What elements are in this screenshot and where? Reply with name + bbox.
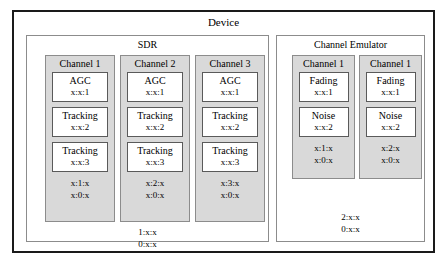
module-address: x:x:3 bbox=[53, 157, 107, 168]
module-name: Tracking bbox=[128, 110, 182, 122]
module-box-agc[interactable]: AGC x:x:1 bbox=[127, 72, 183, 102]
channel-footer-line: x:0:x bbox=[293, 154, 354, 166]
module-box-fading[interactable]: Fading x:x:1 bbox=[366, 72, 416, 102]
module-address: x:x:1 bbox=[128, 87, 182, 98]
emulator-group-frame: Channel Emulator Channel 1 Fading x:x:1 … bbox=[276, 35, 425, 242]
module-box-fading[interactable]: Fading x:x:1 bbox=[299, 72, 349, 102]
module-address: x:x:2 bbox=[53, 122, 107, 133]
module-address: x:x:2 bbox=[367, 122, 415, 133]
sdr-channel-box-1[interactable]: Channel 1 AGC x:x:1 Tracking x:x:2 Track… bbox=[45, 55, 115, 222]
module-box-agc[interactable]: AGC x:x:1 bbox=[202, 72, 258, 102]
channel-footer-line: x:0:x bbox=[360, 154, 421, 166]
module-name: Noise bbox=[367, 110, 415, 122]
sdr-group-footer: 1:x:x 0:x:x bbox=[27, 226, 268, 250]
module-name: Tracking bbox=[128, 145, 182, 157]
module-name: Fading bbox=[367, 75, 415, 87]
module-name: AGC bbox=[203, 75, 257, 87]
module-address: x:x:2 bbox=[128, 122, 182, 133]
emulator-channel-title-1: Channel 1 bbox=[293, 58, 354, 70]
sdr-channel-title-1: Channel 1 bbox=[46, 58, 114, 70]
emulator-channel-title-2: Channel 1 bbox=[360, 58, 421, 70]
module-name: Fading bbox=[300, 75, 348, 87]
sdr-channel-title-3: Channel 3 bbox=[196, 58, 264, 70]
module-box-agc[interactable]: AGC x:x:1 bbox=[52, 72, 108, 102]
channel-footer-line: x:0:x bbox=[121, 189, 189, 201]
module-address: x:x:2 bbox=[203, 122, 257, 133]
channel-footer-line: x:2:x bbox=[121, 177, 189, 189]
module-box-tracking[interactable]: Tracking x:x:2 bbox=[202, 107, 258, 137]
group-footer-line: 1:x:x bbox=[27, 226, 268, 238]
module-name: AGC bbox=[53, 75, 107, 87]
module-name: Tracking bbox=[53, 110, 107, 122]
module-name: AGC bbox=[128, 75, 182, 87]
module-address: x:x:2 bbox=[300, 122, 348, 133]
emulator-group-footer: 2:x:x 0:x:x bbox=[277, 211, 424, 235]
module-name: Tracking bbox=[53, 145, 107, 157]
sdr-channel-footer-3: x:3:x x:0:x bbox=[196, 177, 264, 201]
module-address: x:x:1 bbox=[53, 87, 107, 98]
channel-footer-line: x:1:x bbox=[293, 142, 354, 154]
channel-footer-line: x:0:x bbox=[46, 189, 114, 201]
sdr-group-title: SDR bbox=[27, 39, 268, 51]
module-name: Tracking bbox=[203, 110, 257, 122]
module-box-tracking[interactable]: Tracking x:x:3 bbox=[127, 142, 183, 172]
sdr-channel-footer-2: x:2:x x:0:x bbox=[121, 177, 189, 201]
sdr-channel-footer-1: x:1:x x:0:x bbox=[46, 177, 114, 201]
module-box-noise[interactable]: Noise x:x:2 bbox=[366, 107, 416, 137]
module-box-noise[interactable]: Noise x:x:2 bbox=[299, 107, 349, 137]
emulator-group-title: Channel Emulator bbox=[277, 39, 424, 51]
emulator-channel-footer-2: x:2:x x:0:x bbox=[360, 142, 421, 166]
module-box-tracking[interactable]: Tracking x:x:2 bbox=[52, 107, 108, 137]
group-footer-line: 0:x:x bbox=[277, 223, 424, 235]
module-box-tracking[interactable]: Tracking x:x:3 bbox=[52, 142, 108, 172]
module-box-tracking[interactable]: Tracking x:x:3 bbox=[202, 142, 258, 172]
emulator-channel-box-2[interactable]: Channel 1 Fading x:x:1 Noise x:x:2 x:2:x… bbox=[359, 55, 422, 179]
module-address: x:x:1 bbox=[367, 87, 415, 98]
module-name: Noise bbox=[300, 110, 348, 122]
emulator-channel-footer-1: x:1:x x:0:x bbox=[293, 142, 354, 166]
module-name: Tracking bbox=[203, 145, 257, 157]
module-address: x:x:1 bbox=[203, 87, 257, 98]
module-box-tracking[interactable]: Tracking x:x:2 bbox=[127, 107, 183, 137]
group-footer-line: 2:x:x bbox=[277, 211, 424, 223]
channel-footer-line: x:2:x bbox=[360, 142, 421, 154]
sdr-channel-box-3[interactable]: Channel 3 AGC x:x:1 Tracking x:x:2 Track… bbox=[195, 55, 265, 222]
group-footer-line: 0:x:x bbox=[27, 238, 268, 250]
sdr-channel-title-2: Channel 2 bbox=[121, 58, 189, 70]
module-address: x:x:3 bbox=[203, 157, 257, 168]
module-address: x:x:1 bbox=[300, 87, 348, 98]
module-address: x:x:3 bbox=[128, 157, 182, 168]
sdr-group-frame: SDR Channel 1 AGC x:x:1 Tracking x:x:2 T… bbox=[26, 35, 269, 242]
channel-footer-line: x:0:x bbox=[196, 189, 264, 201]
channel-footer-line: x:3:x bbox=[196, 177, 264, 189]
sdr-channel-box-2[interactable]: Channel 2 AGC x:x:1 Tracking x:x:2 Track… bbox=[120, 55, 190, 222]
device-frame: Device SDR Channel 1 AGC x:x:1 Tracking … bbox=[12, 10, 435, 253]
channel-footer-line: x:1:x bbox=[46, 177, 114, 189]
device-title: Device bbox=[14, 16, 433, 29]
emulator-channel-box-1[interactable]: Channel 1 Fading x:x:1 Noise x:x:2 x:1:x… bbox=[292, 55, 355, 179]
